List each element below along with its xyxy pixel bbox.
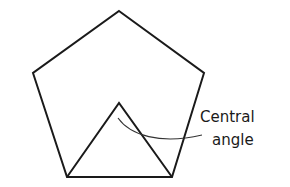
central-triangle: [67, 103, 172, 177]
pentagon-diagram: Central angle: [0, 0, 290, 187]
pentagon: [33, 11, 204, 177]
label-central: Central: [200, 108, 255, 126]
label-angle: angle: [212, 131, 254, 149]
